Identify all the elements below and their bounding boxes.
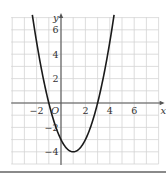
y-tick-label: 6	[52, 24, 58, 35]
y-tick-label: 4	[52, 49, 58, 60]
x-tick-label: −2	[30, 105, 44, 116]
y-tick-label: −2	[44, 122, 58, 133]
x-tick-label: 6	[131, 105, 137, 116]
y-axis-arrow-icon	[59, 13, 63, 18]
axes	[11, 13, 164, 165]
parabola-chart: −2246642−2−4 x y O	[0, 0, 166, 176]
y-tick-label: −4	[44, 146, 58, 157]
x-tick-label: 2	[82, 105, 88, 116]
origin-label: O	[51, 105, 59, 116]
x-tick-label: 4	[107, 105, 113, 116]
bottom-divider	[0, 171, 166, 173]
y-tick-label: 2	[52, 73, 58, 84]
x-axis-label: x	[161, 105, 166, 116]
y-axis-label: y	[52, 12, 59, 23]
